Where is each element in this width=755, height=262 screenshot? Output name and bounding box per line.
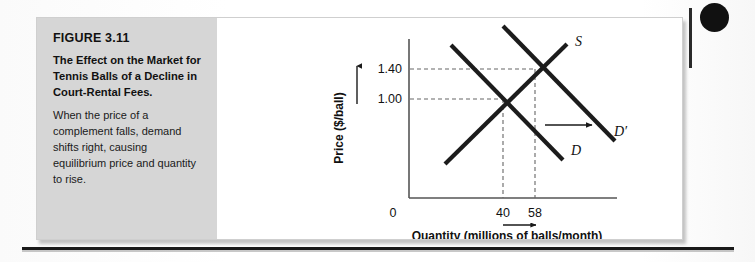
figure-title: The Effect on the Market for Tennis Ball… [53,53,203,101]
curve-label-S: S [575,34,582,49]
curve-label-D: D [570,143,581,158]
origin-label: 0 [390,206,397,220]
figure-box: FIGURE 3.11 The Effect on the Market for… [36,17,683,240]
page-bottom-rule-shadow [22,250,734,252]
figure-caption-panel: FIGURE 3.11 The Effect on the Market for… [37,18,217,239]
y-tick-label-100: 1.00 [378,92,402,106]
x-tick-label-40: 40 [496,206,510,220]
y-axis-title: Price ($/ball) [332,92,346,163]
supply-demand-chart: S D D′ 1.40 1.00 Price ($/ball) 0 40 58 … [217,18,681,239]
y-tick-label-140: 1.40 [378,62,402,76]
figure-number: FIGURE 3.11 [53,32,203,46]
scan-hole-punch-mark [700,3,729,32]
x-axis-title: Quantity (millions of balls/month) [412,229,603,239]
x-tick-label-58: 58 [528,206,542,220]
curve-label-D-prime: D′ [613,124,628,139]
chart-plot-area: S D D′ 1.40 1.00 Price ($/ball) 0 40 58 … [217,18,681,239]
figure-description: When the price of a complement falls, de… [53,108,203,188]
demand-curve-D-prime [503,26,615,141]
scan-binding-line [689,8,692,68]
